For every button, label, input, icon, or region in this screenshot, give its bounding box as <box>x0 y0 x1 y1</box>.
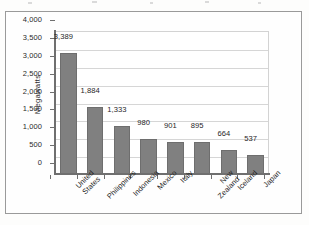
x-axis-tick <box>50 175 51 179</box>
y-axis-tick-label: 0 <box>6 158 42 167</box>
scan-artifact <box>205 1 209 3</box>
bar-value-label: 980 <box>130 118 157 127</box>
bar-value-label: 664 <box>211 129 238 138</box>
y-axis-tick <box>50 92 55 93</box>
bar <box>194 142 211 174</box>
y-axis-tick <box>50 145 55 146</box>
y-axis-tick-label: 3,500 <box>6 33 42 42</box>
bar-value-label: 3,389 <box>50 32 77 41</box>
y-axis-line <box>54 30 56 175</box>
y-axis-tick <box>50 163 55 164</box>
y-axis-tick-label: 2,500 <box>6 69 42 78</box>
scan-artifact <box>28 2 32 4</box>
bar-value-label: 901 <box>157 121 184 130</box>
bar-value-label: 1,884 <box>77 86 104 95</box>
y-axis-tick <box>50 109 55 110</box>
plot-area <box>55 31 269 174</box>
x-axis-tick <box>211 175 212 179</box>
scan-artifact <box>258 2 261 4</box>
y-axis-tick-label: 1,500 <box>6 104 42 113</box>
gridline <box>55 68 268 69</box>
bar <box>87 107 104 174</box>
gridline <box>55 50 268 51</box>
scan-artifact <box>92 1 97 3</box>
y-axis-tick <box>50 127 55 128</box>
gridline <box>55 104 268 105</box>
y-axis-tick <box>50 20 55 21</box>
y-axis-tick-label: 4,000 <box>6 15 42 24</box>
y-axis-tick-label: 2,000 <box>6 87 42 96</box>
bar-value-label: 1,333 <box>104 105 131 114</box>
y-axis-tick-label: 500 <box>6 140 42 149</box>
y-axis-tick-label: 1,000 <box>6 122 42 131</box>
bar-value-label: 895 <box>184 121 211 130</box>
x-axis-tick <box>104 175 105 179</box>
bar <box>60 53 77 174</box>
chart-frame: Megawatts 4,0003,5003,0002,5002,0001,500… <box>5 11 302 214</box>
scan-artifact <box>150 2 153 4</box>
y-axis-tick-label: 3,000 <box>6 51 42 60</box>
bar-value-label: 537 <box>237 134 264 143</box>
y-axis-tick <box>50 74 55 75</box>
bar <box>114 126 131 174</box>
chart-screenshot: Megawatts 4,0003,5003,0002,5002,0001,500… <box>0 0 309 225</box>
y-axis-tick <box>50 56 55 57</box>
